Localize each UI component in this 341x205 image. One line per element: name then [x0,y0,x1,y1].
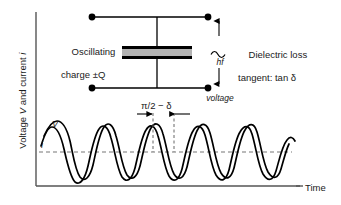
hf-voltage-line1: hf [203,58,237,67]
x-axis-label: Time [305,182,326,193]
dielectric-loss-line1: Dielectric loss [249,49,308,60]
node-top-left [89,14,96,21]
oscillating-charge-label: Oscillating charge ±Q [61,35,115,102]
y-axis-label-symbol-i: i [17,53,28,55]
dielectric-loss-label: Dielectric loss tangent: tan δ [238,38,307,105]
hf-voltage-line2: voltage [203,94,237,103]
hf-voltage-label: hf voltage [203,38,237,122]
waveforms [41,121,295,183]
figure-dielectric-loss: Oscillating charge ±Q hf voltage Dielect… [0,0,341,205]
y-axis-label-part1: Voltage [17,114,28,148]
y-axis-label-part3: and current [17,55,28,108]
y-axis-label-symbol-v: V [17,108,28,114]
phase-difference-label: π/2 − δ [141,100,172,111]
node-top-right [205,14,212,21]
y-axis-label: Voltage V and current i [17,36,28,166]
curve-label-voltage: V [52,119,58,130]
dielectric-loss-line2: tangent: tan δ [238,72,307,83]
oscillating-charge-line1: Oscillating [72,46,116,57]
oscillating-charge-line2: charge ±Q [61,69,115,80]
curve-label-current: i [41,140,43,151]
